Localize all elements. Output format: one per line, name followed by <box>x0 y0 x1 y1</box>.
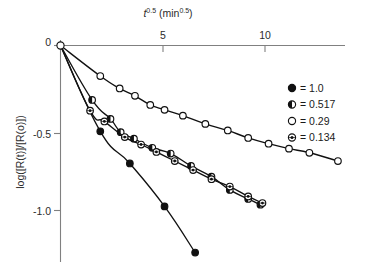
x-axis-title-unit-open: (min <box>156 7 179 19</box>
y-axis-title: log([R(t)]/[R(o)]) <box>14 115 26 189</box>
data-point-1-0-2 <box>127 160 134 167</box>
data-point-1-0-1 <box>97 128 104 135</box>
legend-marker-open-circle <box>288 117 295 124</box>
data-point-0-29-6 <box>180 112 187 119</box>
series-line-0-29 <box>61 46 338 162</box>
data-point-0-134-11 <box>259 200 266 207</box>
legend-marker-half-filled-circle <box>288 101 295 108</box>
legend-marker-dotted-circle <box>288 134 295 141</box>
origin-marker <box>57 42 64 49</box>
data-point-0-517-1 <box>89 97 96 104</box>
legend-marker-filled-circle <box>288 84 295 91</box>
data-point-0-134-4 <box>138 141 145 148</box>
figure-container: 5 10 0 -0.5 -1.0 t0.5 (min0.5) log([R(t)… <box>0 0 367 277</box>
legend-label: = 0.134 <box>300 131 335 143</box>
data-point-0-29-10 <box>265 140 272 147</box>
data-point-0-29-12 <box>306 149 313 156</box>
data-point-0-29-2 <box>116 85 123 92</box>
legend-entry-0134[interactable]: = 0.134 <box>288 131 335 143</box>
data-point-0-29-7 <box>202 121 209 128</box>
svg-text:t0.5 (min0.5): t0.5 (min0.5) <box>143 7 192 19</box>
chart-canvas: 5 10 0 -0.5 -1.0 t0.5 (min0.5) log([R(t)… <box>0 0 367 277</box>
x-tick-label-5: 5 <box>160 29 166 41</box>
data-point-0-134-5 <box>153 149 160 156</box>
legend-entry-10[interactable]: = 1.0 <box>288 82 323 94</box>
data-point-0-29-8 <box>224 127 231 134</box>
series-1-0 <box>61 46 199 256</box>
legend: = 1.0= 0.517= 0.29= 0.134 <box>288 82 335 144</box>
legend-entry-029[interactable]: = 0.29 <box>288 115 329 127</box>
legend-label: = 0.29 <box>300 115 330 127</box>
data-point-0-29-9 <box>245 135 252 142</box>
data-point-0-134-10 <box>245 193 252 200</box>
data-point-0-29-3 <box>132 93 139 100</box>
data-point-0-134-9 <box>227 183 234 190</box>
data-point-0-134-3 <box>121 134 128 141</box>
data-point-0-134-7 <box>190 167 197 174</box>
data-point-0-134-6 <box>171 158 178 165</box>
legend-label: = 0.517 <box>300 98 335 110</box>
series-layer <box>57 42 341 256</box>
x-axis-title: t0.5 (min0.5) <box>143 7 192 19</box>
y-tick-label-neg-one: -1.0 <box>33 205 51 217</box>
x-axis-title-unit-close: ) <box>189 7 193 19</box>
data-point-1-0-3 <box>161 203 168 210</box>
x-axis-title-unit-exp: 0.5 <box>179 7 189 14</box>
data-point-0-29-1 <box>97 73 104 80</box>
data-point-0-517-6 <box>167 150 174 157</box>
data-point-0-134-1 <box>87 107 94 114</box>
x-tick-label-10: 10 <box>259 29 271 41</box>
y-tick-label-neg-half: -0.5 <box>33 128 51 140</box>
data-point-0-29-4 <box>147 102 154 109</box>
y-tick-label-0: 0 <box>45 36 51 48</box>
data-point-0-134-8 <box>208 176 215 183</box>
data-point-0-29-5 <box>161 107 168 114</box>
data-point-0-29-11 <box>286 145 293 152</box>
legend-entry-0517[interactable]: = 0.517 <box>288 98 335 110</box>
data-point-1-0-4 <box>192 249 199 256</box>
data-point-0-29-13 <box>335 158 342 165</box>
legend-label: = 1.0 <box>300 82 324 94</box>
x-axis-title-exp: 0.5 <box>146 7 156 14</box>
data-point-0-134-2 <box>101 118 108 125</box>
series-line-1-0 <box>61 46 196 253</box>
